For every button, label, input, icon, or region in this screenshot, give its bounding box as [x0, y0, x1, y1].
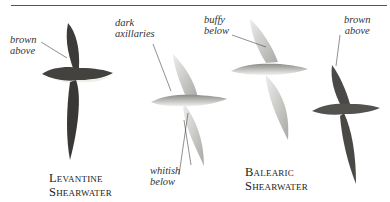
species-label-levantine: Levantine Shearwater — [49, 171, 112, 199]
leader-line — [179, 113, 188, 175]
balearic-shearwater-upperside-bird — [312, 65, 380, 184]
species-label-balearic: Balearic Shearwater — [245, 165, 308, 193]
levantine-shearwater-bird — [42, 23, 113, 160]
annotation-buffy-below: buffy below — [204, 14, 229, 36]
annotation-brown-above-levantine: brown above — [10, 34, 36, 56]
balearic-shearwater-buffy-bird — [231, 19, 308, 140]
annotation-dark-axillaries: dark axillaries — [115, 17, 155, 39]
annotation-brown-above-balearic: brown above — [344, 14, 370, 36]
balearic-shearwater-underside-bird — [151, 54, 227, 166]
leader-line — [153, 44, 171, 91]
annotation-whitish-below: whitish below — [150, 165, 180, 187]
leader-line — [41, 42, 67, 58]
leader-line — [336, 35, 340, 66]
